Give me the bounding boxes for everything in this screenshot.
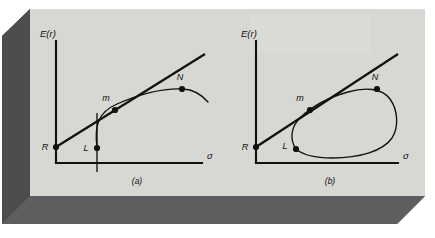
y-axis-label-b: E(r) <box>241 28 257 39</box>
point-dot-m-a <box>112 107 118 113</box>
point-dot-n-a <box>179 86 185 92</box>
panel-caption-b: (b) <box>325 176 336 186</box>
frame-left-bevel <box>2 9 30 224</box>
point-label-n-b: N <box>372 72 379 82</box>
point-dot-m-b <box>307 107 313 113</box>
point-dot-r-a <box>53 144 59 150</box>
point-label-r-a: R <box>42 142 49 152</box>
figure-container: E(r) σ R L m N (a) E(r) <box>0 0 435 238</box>
point-label-l-a: L <box>83 143 88 153</box>
y-axis-label-a: E(r) <box>40 28 56 39</box>
panel-highlight <box>250 14 370 54</box>
panel-caption-a: (a) <box>132 176 143 186</box>
point-label-r-b: R <box>242 142 249 152</box>
point-dot-n-b <box>374 86 380 92</box>
point-label-m-b: m <box>296 93 304 103</box>
point-dot-l-b <box>293 146 299 152</box>
frame-3d <box>0 0 435 238</box>
point-label-l-b: L <box>282 141 287 151</box>
point-dot-r-b <box>253 144 259 150</box>
point-label-n-a: N <box>177 72 184 82</box>
figure-svg: E(r) σ R L m N (a) E(r) <box>0 0 435 238</box>
point-dot-l-a <box>94 145 100 151</box>
frame-bottom-bevel <box>2 196 425 224</box>
point-label-m-a: m <box>102 93 110 103</box>
